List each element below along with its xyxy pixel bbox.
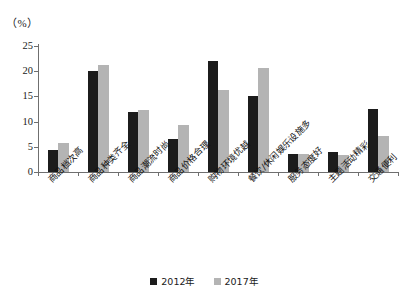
x-axis-tick-mark [358,172,359,176]
x-axis-tick-mark [78,172,79,176]
x-axis-tick-mark [398,172,399,176]
bar-group [248,46,269,172]
dark-square-swatch [150,278,157,285]
bar-group [48,46,69,172]
bar-group [328,46,349,172]
y-axis-tick-mark [34,71,38,72]
y-axis-line [38,44,39,172]
x-axis-tick-mark [198,172,199,176]
y-axis-tick-mark [34,96,38,97]
bar [368,109,379,172]
plot-area: 0510152025 [38,46,398,172]
legend-item-label: 2012年 [161,274,195,288]
bar-group [88,46,109,172]
legend-item: 2012年 [150,274,195,288]
x-axis-tick-mark [158,172,159,176]
legend-item: 2017年 [214,274,259,288]
y-axis-tick-mark [34,147,38,148]
y-axis-tick-label: 0 [28,167,33,178]
chart-legend: 2012年2017年 [0,274,409,288]
y-axis-tick-label: 5 [28,142,33,153]
x-axis-tick-mark [278,172,279,176]
bar [208,61,219,172]
bar [248,96,259,172]
x-axis-tick-mark [318,172,319,176]
bar-group [288,46,309,172]
bar [88,71,99,172]
bar-group [128,46,149,172]
y-axis-tick-mark [34,122,38,123]
light-square-swatch [214,278,221,285]
bar [128,112,139,172]
bar-group [368,46,389,172]
legend-item-label: 2017年 [225,274,259,288]
y-axis-tick-label: 15 [23,91,34,102]
x-axis-tick-mark [118,172,119,176]
bar-group [208,46,229,172]
y-axis-unit-label: （%） [6,14,39,30]
y-axis-tick-label: 10 [23,116,34,127]
y-axis-tick-label: 25 [23,41,34,52]
bar-chart: （%） 0510152025 商品档次高商品种类齐全商品潮流时尚商品价格合理购物… [0,0,409,300]
bar-group [168,46,189,172]
x-axis-tick-mark [38,172,39,176]
y-axis-tick-label: 20 [23,66,34,77]
x-axis-tick-mark [238,172,239,176]
y-axis-tick-mark [34,46,38,47]
